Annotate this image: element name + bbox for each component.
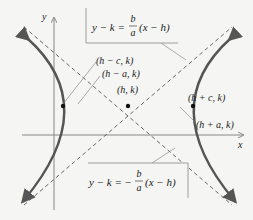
svg-text:b: b <box>131 13 136 24</box>
leader-focus-left <box>63 62 96 104</box>
svg-text:(x − h): (x − h) <box>145 176 176 189</box>
label-vertex-left: (h − a, k) <box>102 68 141 80</box>
label-vertex-right: (h + a, k) <box>196 119 235 131</box>
y-axis-label: y <box>41 11 47 22</box>
center-point <box>126 104 130 108</box>
hyperbola-diagram: x y (h − c, k) (h − a, k) (h, k) (h + c,… <box>0 0 253 220</box>
svg-text:a: a <box>137 182 142 193</box>
focus-right-point <box>191 104 195 108</box>
equation-upper-box: y − k = b a (x − h) <box>86 8 178 43</box>
label-focus-right: (h + c, k) <box>188 92 226 104</box>
svg-text:b: b <box>137 168 142 179</box>
x-axis-label: x <box>237 139 243 150</box>
label-center: (h, k) <box>117 84 139 96</box>
svg-text:y − k =: y − k = <box>91 21 125 33</box>
svg-text:y − k = −: y − k = − <box>88 176 132 188</box>
leader-lower-eq <box>152 148 175 163</box>
equation-lower-box: y − k = − b a (x − h) <box>88 163 188 198</box>
leader-upper-eq <box>161 43 186 60</box>
focus-left-point <box>61 104 65 108</box>
label-focus-left: (h − c, k) <box>96 55 134 67</box>
leader-vertex-left <box>78 76 100 104</box>
svg-text:(x − h): (x − h) <box>139 21 170 34</box>
svg-text:a: a <box>131 27 136 38</box>
